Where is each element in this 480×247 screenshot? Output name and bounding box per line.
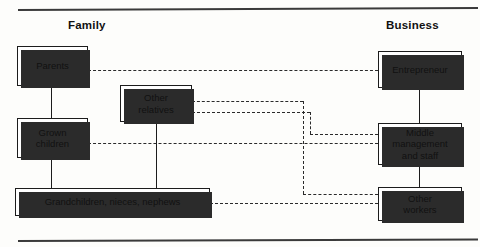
node-other-relatives-text: Other relatives — [138, 92, 173, 114]
node-other-relatives-label-line1: Other — [144, 92, 168, 103]
column-heading-business: Business — [386, 19, 439, 31]
node-other-workers-text: Other workers — [403, 193, 436, 215]
connector-grown-children-to-middle-management — [88, 143, 378, 144]
node-other-relatives-label-line2: relatives — [138, 104, 173, 115]
node-middle-management-label-line1: Middle — [406, 127, 434, 138]
bottom-divider-rule — [18, 239, 478, 242]
connector-other-relatives-to-middle-management — [310, 134, 378, 135]
node-parents-label: Parents — [36, 60, 69, 71]
node-grown-children-label-line2: children — [36, 138, 69, 149]
node-grown-children-label-line1: Grown — [39, 127, 67, 138]
node-other-workers-label-line1: Other — [408, 193, 432, 204]
connector-other-relatives-vertical-drop — [303, 101, 304, 194]
node-entrepreneur[interactable]: Entrepreneur — [378, 51, 462, 88]
connector-grown-children-to-grandchildren — [51, 158, 52, 189]
node-grown-children[interactable]: Grown children — [17, 118, 88, 158]
connector-parents-to-grown-children — [51, 86, 52, 119]
column-heading-family: Family — [68, 19, 106, 31]
connector-other-relatives-vertical-short — [310, 112, 311, 134]
connector-entrepreneur-to-middle-management — [419, 88, 420, 123]
node-other-workers[interactable]: Other workers — [378, 187, 462, 221]
node-middle-management-label-line2: management — [392, 138, 447, 149]
connector-other-relatives-upper-horizontal — [192, 101, 303, 102]
node-middle-management-label-line3: and staff — [402, 150, 438, 161]
node-grandchildren[interactable]: Grandchildren, nieces, nephews — [15, 188, 210, 216]
node-parents[interactable]: Parents — [17, 46, 88, 86]
node-entrepreneur-label: Entrepreneur — [392, 64, 447, 75]
connector-middle-management-to-other-workers — [419, 165, 420, 187]
node-grown-children-text: Grown children — [36, 127, 69, 149]
node-grandchildren-label: Grandchildren, nieces, nephews — [45, 196, 181, 207]
top-divider-rule — [18, 7, 478, 11]
node-other-relatives[interactable]: Other relatives — [120, 85, 192, 122]
connector-parents-to-entrepreneur — [88, 70, 378, 71]
node-other-workers-label-line2: workers — [403, 204, 436, 215]
node-middle-management[interactable]: Middle management and staff — [378, 123, 462, 165]
diagram-canvas: Family Business Parents Grown children O… — [0, 0, 480, 247]
connector-other-relatives-lower-horizontal — [192, 112, 310, 113]
connector-other-relatives-to-grandchildren — [156, 122, 157, 189]
node-middle-management-text: Middle management and staff — [392, 127, 447, 161]
connector-grandchildren-to-other-workers — [210, 203, 378, 204]
connector-other-relatives-to-other-workers — [303, 194, 378, 195]
